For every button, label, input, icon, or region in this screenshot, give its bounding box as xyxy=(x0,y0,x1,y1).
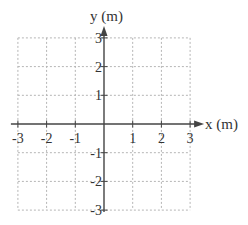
y-tick-label: -1 xyxy=(90,146,102,161)
x-tick-label: 2 xyxy=(158,131,165,146)
x-tick-label: -2 xyxy=(41,131,53,146)
x-axis-label: x (m) xyxy=(205,116,238,133)
axes xyxy=(11,26,204,212)
coordinate-plane: -3-2-1123 321-1-2-3 x (m) y (m) xyxy=(0,0,248,225)
y-tick-label: -2 xyxy=(90,174,102,189)
y-tick-label: 2 xyxy=(95,60,102,75)
y-tick-label: 3 xyxy=(95,31,102,46)
y-tick-label: -3 xyxy=(90,203,102,218)
x-tick-label: 1 xyxy=(129,131,136,146)
x-tick-label: 3 xyxy=(187,131,194,146)
x-tick-label: -3 xyxy=(12,131,24,146)
x-tick-label: -1 xyxy=(69,131,81,146)
y-axis-label: y (m) xyxy=(90,8,123,25)
y-tick-label: 1 xyxy=(95,88,102,103)
x-axis-arrow-icon xyxy=(194,121,204,128)
x-tick-labels: -3-2-1123 xyxy=(12,131,194,146)
